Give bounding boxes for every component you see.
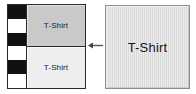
stripe-segment bbox=[8, 5, 26, 19]
diagram-canvas: T-Shirt T-Shirt T-Shirt bbox=[0, 0, 196, 94]
split-cell-top-label: T-Shirt bbox=[44, 21, 68, 30]
split-cell-top[interactable]: T-Shirt bbox=[27, 5, 85, 47]
arrow-left-icon bbox=[88, 41, 103, 50]
stripe-segment bbox=[8, 33, 26, 47]
stripe-segment bbox=[8, 46, 26, 60]
split-cells-container: T-Shirt T-Shirt bbox=[27, 5, 85, 88]
source-tshirt-box[interactable]: T-Shirt bbox=[105, 5, 190, 89]
split-cell-bottom-label: T-Shirt bbox=[44, 63, 68, 72]
stripe-segment bbox=[8, 74, 26, 88]
stripe-segment bbox=[8, 19, 26, 33]
stripe-segment bbox=[8, 60, 26, 74]
split-cell-bottom[interactable]: T-Shirt bbox=[27, 47, 85, 88]
source-tshirt-label: T-Shirt bbox=[128, 40, 168, 55]
split-view-panel[interactable]: T-Shirt T-Shirt bbox=[7, 4, 86, 89]
barcode-stripe-bar bbox=[8, 5, 27, 88]
